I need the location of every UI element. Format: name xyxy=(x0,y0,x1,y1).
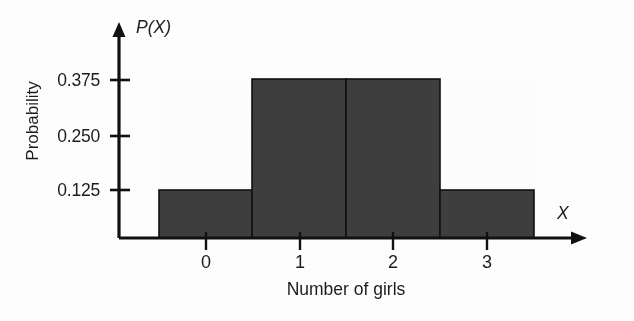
x-axis-arrow-icon xyxy=(571,232,587,245)
x-tick-label-3: 3 xyxy=(467,252,507,273)
x-axis-symbol-label: X xyxy=(557,203,569,224)
bars-group xyxy=(159,79,534,238)
y-tick-label-0125: 0.125 xyxy=(10,180,100,201)
probability-histogram-figure: P(X) X 0.375 0.250 0.125 Probability 0 1… xyxy=(0,0,634,321)
y-axis-symbol-label: P(X) xyxy=(136,17,171,38)
y-axis-arrow-icon xyxy=(113,22,126,37)
bar-0 xyxy=(159,190,252,238)
y-axis xyxy=(110,22,130,238)
bar-1 xyxy=(252,79,346,238)
x-tick-label-1: 1 xyxy=(280,252,320,273)
x-axis-title: Number of girls xyxy=(246,279,446,300)
bar-2 xyxy=(346,79,440,238)
x-tick-label-2: 2 xyxy=(373,252,413,273)
x-tick-label-0: 0 xyxy=(186,252,226,273)
bar-3 xyxy=(440,190,534,238)
y-axis-title: Probability xyxy=(23,66,43,176)
